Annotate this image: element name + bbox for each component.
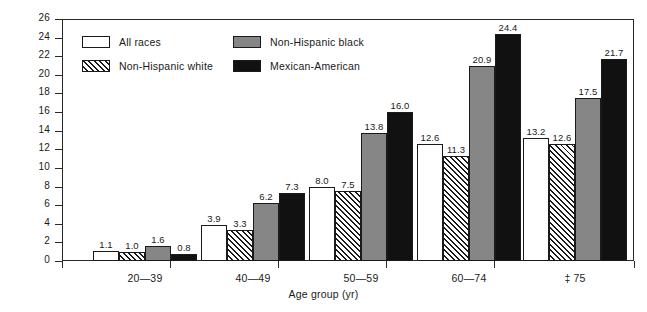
- hatch-pattern: [550, 145, 574, 260]
- bar-value-label: 3.9: [207, 213, 221, 224]
- hatch-pattern: [444, 157, 468, 260]
- x-axis-tick-mark: [494, 261, 495, 268]
- bar[interactable]: 20.9: [469, 66, 495, 261]
- bar-value-label: 20.9: [473, 54, 492, 65]
- y-axis-tick-label: 18: [38, 86, 50, 97]
- hatch-pattern: [228, 231, 252, 260]
- y-axis-tick-label: 12: [38, 142, 50, 153]
- x-axis-category-label: ‡ 75: [564, 272, 585, 284]
- y-axis-tick-label: 6: [44, 198, 50, 209]
- y-axis-tick-mark: [55, 168, 62, 169]
- bar[interactable]: 21.7: [601, 59, 627, 261]
- y-axis-tick-mark: [55, 131, 62, 132]
- legend-item[interactable]: Non-Hispanic black: [233, 36, 364, 48]
- bar-value-label: 8.0: [315, 175, 329, 186]
- legend-label: Non-Hispanic white: [119, 60, 213, 72]
- bar[interactable]: 12.6: [549, 144, 575, 261]
- y-axis-tick-label: 4: [44, 217, 50, 228]
- y-axis-tick-label: 24: [38, 31, 50, 42]
- bar[interactable]: 16.0: [387, 112, 413, 261]
- bar-value-label: 13.2: [527, 126, 546, 137]
- bar[interactable]: 1.1: [93, 251, 119, 261]
- bar-value-label: 11.3: [447, 144, 465, 155]
- bar-value-label: 17.5: [579, 86, 598, 97]
- y-axis-tick-label: 2: [44, 235, 50, 246]
- bar-group: 3.93.36.27.3: [201, 19, 305, 261]
- bar-value-label: 16.0: [391, 100, 410, 111]
- legend-swatch: [233, 36, 261, 48]
- bar-value-label: 3.3: [233, 218, 247, 229]
- bar[interactable]: 6.2: [253, 203, 279, 261]
- legend-swatch: [82, 60, 110, 72]
- bar[interactable]: 3.3: [227, 230, 253, 261]
- y-axis-tick-label: 20: [38, 68, 50, 79]
- bar[interactable]: 1.6: [145, 246, 171, 261]
- bar-value-label: 1.1: [99, 239, 113, 250]
- bar-value-label: 1.6: [151, 234, 165, 245]
- bar-chart-figure: Percent 02468101214161820222426 1.11.01.…: [0, 0, 647, 312]
- legend-label: Mexican-American: [270, 60, 360, 72]
- y-axis-tick-mark: [55, 149, 62, 150]
- hatch-pattern: [120, 253, 144, 260]
- x-axis-category-label: 60—74: [452, 272, 487, 284]
- y-axis-tick-mark: [55, 93, 62, 94]
- legend-item[interactable]: Non-Hispanic white: [82, 60, 213, 72]
- y-axis-tick-label: 22: [38, 49, 50, 60]
- bar[interactable]: 24.4: [495, 34, 521, 261]
- bar-value-label: 0.8: [177, 242, 191, 253]
- x-axis-tick-mark: [62, 261, 63, 268]
- bars-layer: 1.11.01.60.83.93.36.27.38.07.513.816.012…: [62, 19, 634, 261]
- y-axis-tick-mark: [55, 56, 62, 57]
- y-axis-tick-label: 14: [38, 124, 50, 135]
- y-axis-tick-label: 0: [44, 254, 50, 265]
- bar-group: 13.212.617.521.7: [523, 19, 627, 261]
- bar-value-label: 1.0: [125, 240, 139, 251]
- bar[interactable]: 8.0: [309, 187, 335, 261]
- bar[interactable]: 0.8: [171, 254, 197, 261]
- bar[interactable]: 7.5: [335, 191, 361, 261]
- bar-value-label: 6.2: [259, 191, 273, 202]
- y-axis-tick-mark: [55, 205, 62, 206]
- bar[interactable]: 1.0: [119, 252, 145, 261]
- bar[interactable]: 7.3: [279, 193, 305, 261]
- legend-swatch: [233, 60, 261, 72]
- y-axis-tick-mark: [55, 187, 62, 188]
- y-axis-tick-label: 16: [38, 105, 50, 116]
- legend-label: All races: [119, 36, 161, 48]
- legend-item[interactable]: All races: [82, 36, 161, 48]
- x-axis-category-label: 20—39: [128, 272, 163, 284]
- bar[interactable]: 11.3: [443, 156, 469, 261]
- bar-group: 12.611.320.924.4: [417, 19, 521, 261]
- x-axis-tick-mark: [170, 261, 171, 268]
- hatch-pattern: [336, 192, 360, 260]
- x-axis-tick-mark: [634, 261, 635, 268]
- bar-value-label: 24.4: [499, 22, 518, 33]
- bar[interactable]: 13.8: [361, 133, 387, 261]
- bar[interactable]: 3.9: [201, 225, 227, 261]
- bar-value-label: 13.8: [365, 121, 384, 132]
- legend-label: Non-Hispanic black: [270, 36, 364, 48]
- bar-group: 1.11.01.60.8: [93, 19, 197, 261]
- y-axis-tick-mark: [55, 224, 62, 225]
- y-axis-tick-mark: [55, 261, 62, 262]
- y-axis-tick-mark: [55, 75, 62, 76]
- bar-value-label: 12.6: [421, 132, 440, 143]
- y-axis-tick-mark: [55, 112, 62, 113]
- y-axis-tick-mark: [55, 242, 62, 243]
- legend-swatch: [82, 36, 110, 48]
- legend-item[interactable]: Mexican-American: [233, 60, 360, 72]
- bar-value-label: 21.7: [605, 47, 624, 58]
- y-axis-tick-label: 26: [38, 12, 50, 23]
- x-axis-category-label: 50—59: [344, 272, 379, 284]
- hatch-pattern: [83, 61, 109, 71]
- y-axis-tick-label: 10: [38, 161, 50, 172]
- bar[interactable]: 13.2: [523, 138, 549, 261]
- x-axis-tick-mark: [278, 261, 279, 268]
- x-axis-tick-mark: [386, 261, 387, 268]
- bar-value-label: 7.3: [285, 181, 299, 192]
- bar[interactable]: 12.6: [417, 144, 443, 261]
- y-axis-tick-mark: [55, 19, 62, 20]
- bar[interactable]: 17.5: [575, 98, 601, 261]
- bar-group: 8.07.513.816.0: [309, 19, 413, 261]
- x-axis-category-label: 40—49: [236, 272, 271, 284]
